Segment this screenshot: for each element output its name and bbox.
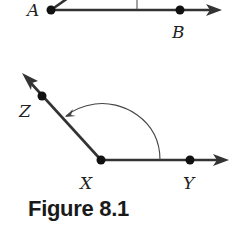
- angle-zxy: Z X Y: [18, 73, 229, 193]
- label-b: B: [171, 22, 185, 42]
- point-y: [186, 156, 195, 165]
- label-y: Y: [183, 173, 196, 193]
- label-x: X: [78, 173, 93, 193]
- point-z: [38, 92, 47, 101]
- label-z: Z: [18, 101, 32, 121]
- angle-abc-top: A B: [25, 0, 222, 42]
- angle-arc: [66, 103, 160, 160]
- label-a: A: [25, 0, 39, 20]
- point-b: [176, 6, 185, 15]
- point-x: [97, 156, 106, 165]
- figure-caption: Figure 8.1: [28, 196, 129, 222]
- point-a: [47, 6, 56, 15]
